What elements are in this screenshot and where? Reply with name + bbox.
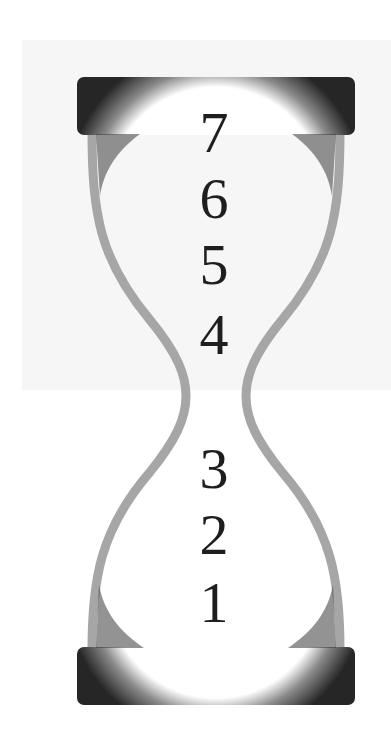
top-cap-shading (96, 134, 140, 196)
label-6: 6 (184, 170, 244, 228)
label-2: 2 (184, 506, 244, 564)
label-5: 5 (184, 236, 244, 294)
label-1: 1 (184, 574, 244, 632)
label-4: 4 (184, 306, 244, 364)
bottom-cap-shading (96, 585, 144, 648)
label-3: 3 (184, 440, 244, 498)
label-7: 7 (184, 104, 244, 162)
bottom-cap (77, 647, 355, 705)
